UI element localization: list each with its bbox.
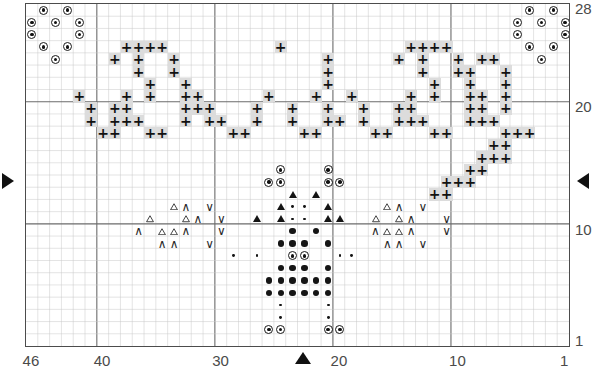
chart-cell-plus-on-grey: + [156, 41, 168, 53]
plus-icon: + [381, 125, 393, 139]
plus-icon: + [417, 64, 429, 78]
filled-dot-icon [266, 277, 272, 283]
filled-dot-icon [313, 277, 319, 283]
circled-dot-icon [27, 30, 36, 39]
small-dot-icon [303, 218, 306, 221]
chart-cell-vee-down: ∨ [441, 225, 453, 237]
plus-icon: + [133, 113, 145, 127]
chart-cell-plus-on-grey: + [464, 78, 476, 90]
chart-cell-open-triangle [168, 201, 180, 213]
small-dot-icon [303, 205, 306, 208]
chart-cell-plus-on-grey: + [133, 65, 145, 77]
circled-dot-icon [276, 325, 285, 334]
plus-icon: + [145, 89, 157, 103]
plus-icon: + [73, 89, 85, 103]
small-dot-icon [256, 254, 259, 257]
chart-cell-vee-down: ∨ [204, 201, 216, 213]
plus-icon: + [405, 113, 417, 127]
chart-cell-caret-up: ∧ [180, 201, 192, 213]
chart-cell-plus-on-grey: + [310, 127, 322, 139]
x-tick-label-1: 1 [552, 352, 576, 369]
chart-cell-circled-dot [559, 29, 570, 41]
plus-icon: + [441, 125, 453, 139]
filled-triangle-icon [336, 215, 344, 222]
chart-cell-circled-dot [334, 323, 346, 335]
chart-cell-plus-on-grey: + [417, 65, 429, 77]
chart-cell-plus-on-grey: + [393, 115, 405, 127]
chart-cell-plus-on-grey: + [381, 127, 393, 139]
chart-cell-small-dot [299, 213, 311, 225]
chart-cell-circled-dot [275, 176, 287, 188]
caret-up-icon: ∧ [134, 225, 143, 237]
chart-cell-filled-dot [322, 262, 334, 274]
chart-cell-plus-on-grey: + [346, 90, 358, 102]
chart-cell-plus-on-grey: + [488, 151, 500, 163]
chart-cell-circled-dot [512, 29, 524, 41]
caret-up-icon: ∧ [371, 225, 380, 237]
chart-cell-open-triangle [180, 213, 192, 225]
circled-dot-icon [39, 42, 48, 51]
plus-icon: + [145, 125, 157, 139]
plus-icon: + [121, 39, 133, 53]
plus-icon: + [453, 175, 465, 189]
y-tick-label-10: 10 [575, 221, 592, 238]
chart-cell-plus-on-grey: + [500, 151, 512, 163]
chart-cell-open-triangle [381, 201, 393, 213]
circled-dot-icon [324, 325, 333, 334]
filled-triangle-icon [324, 215, 332, 222]
small-dot-icon [350, 254, 353, 257]
chart-cell-caret-up: ∧ [180, 225, 192, 237]
circled-dot-icon [288, 251, 297, 260]
circled-dot-icon [525, 42, 534, 51]
chart-cell-filled-triangle [334, 213, 346, 225]
chart-cell-circled-dot [512, 16, 524, 28]
chart-cell-circled-dot [547, 41, 559, 53]
chart-cell-plus-on-grey: + [488, 53, 500, 65]
chart-cell-plus-on-grey: + [464, 115, 476, 127]
chart-cell-small-dot [322, 299, 334, 311]
chart-cell-filled-dot [310, 274, 322, 286]
caret-up-icon: ∧ [182, 225, 191, 237]
chart-cell-plus-on-grey: + [97, 127, 109, 139]
plus-icon: + [156, 125, 168, 139]
circled-dot-icon [27, 18, 36, 27]
chart-cell-filled-triangle [322, 213, 334, 225]
chart-cell-plus-on-grey: + [429, 127, 441, 139]
chart-grid[interactable]: ++++++++++++++++++++++++++++++++++++++++… [25, 3, 570, 347]
chart-cell-filled-dot [299, 287, 311, 299]
chart-cell-filled-dot [310, 225, 322, 237]
chart-cell-plus-on-grey: + [275, 41, 287, 53]
plus-icon: + [168, 64, 180, 78]
plus-icon: + [393, 52, 405, 66]
filled-dot-icon [289, 290, 295, 296]
chart-cell-vee-down: ∨ [417, 201, 429, 213]
chart-cell-circled-dot [26, 29, 38, 41]
circled-dot-icon [63, 6, 72, 15]
chart-cell-plus-on-grey: + [144, 90, 156, 102]
vee-down-icon: ∨ [442, 225, 451, 237]
open-triangle-icon [158, 228, 166, 235]
chart-cell-circled-dot [73, 29, 85, 41]
symbol-layer: ++++++++++++++++++++++++++++++++++++++++… [26, 4, 569, 346]
open-triangle-icon [146, 215, 154, 222]
chart-cell-circled-dot [263, 323, 275, 335]
chart-cell-plus-on-grey: + [180, 115, 192, 127]
chart-cell-plus-on-grey: + [109, 127, 121, 139]
caret-up-icon: ∧ [193, 213, 202, 225]
y-tick-label-28: 28 [575, 0, 592, 17]
circled-dot-icon [335, 325, 344, 334]
chart-cell-filled-dot [322, 287, 334, 299]
chart-cell-circled-dot [524, 41, 536, 53]
plus-icon: + [287, 113, 299, 127]
chart-cell-plus-on-grey: + [204, 115, 216, 127]
chart-cell-open-triangle [393, 225, 405, 237]
x-tick-label-20: 20 [327, 352, 351, 369]
chart-cell-filled-triangle [287, 188, 299, 200]
chart-cell-plus-on-grey: + [358, 115, 370, 127]
circled-dot-icon [513, 30, 522, 39]
chart-cell-small-dot [334, 250, 346, 262]
chart-cell-plus-on-grey: + [322, 78, 334, 90]
filled-dot-icon [325, 277, 331, 283]
chart-cell-circled-dot [275, 323, 287, 335]
plus-icon: + [429, 89, 441, 103]
